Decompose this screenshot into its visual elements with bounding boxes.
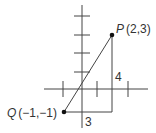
point-q	[62, 110, 67, 115]
point-p	[110, 33, 115, 38]
horizontal-leg-label: 3	[85, 115, 92, 129]
point-q-label: Q(−1,−1)	[7, 106, 57, 120]
point-p-label: P(2,3)	[116, 22, 151, 36]
vertical-leg-label: 4	[115, 70, 122, 84]
hypotenuse-pq	[64, 35, 112, 112]
coordinate-diagram: P(2,3) Q(−1,−1) 4 3	[0, 0, 156, 133]
